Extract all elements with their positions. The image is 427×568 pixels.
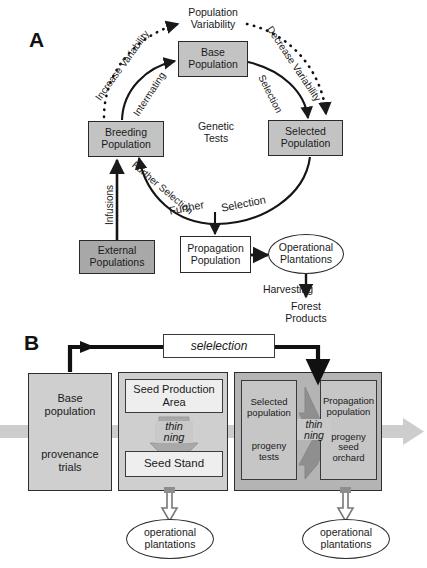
panel-b-selection-wiring bbox=[0, 0, 427, 568]
figure-canvas: A bbox=[0, 0, 427, 568]
selection-box[interactable]: selelection bbox=[163, 334, 275, 358]
selection-box-label: selelection bbox=[191, 339, 248, 353]
